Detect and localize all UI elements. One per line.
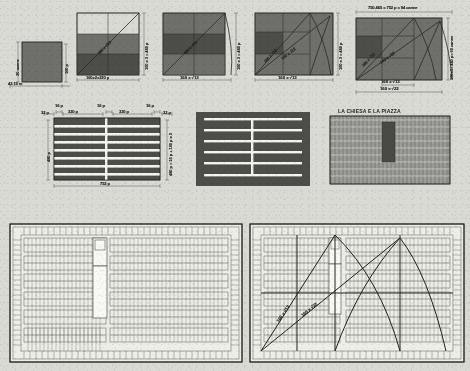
- fig1-right-label: 160 p: [65, 64, 69, 74]
- figure-block-subdivision-plain: [196, 112, 310, 186]
- fig6-right-stack-label: 480 p = 16 p + 160 p x 3: [169, 133, 173, 176]
- figure-final-rectangle: 750.465 = 752 p = 94 canne 160 x √13 160…: [352, 6, 464, 98]
- scanned-diagram-page: 20 canne 160 p 42.19 m 160x2=320 p 160 x…: [0, 0, 470, 371]
- figure-arc-rotation-root22: 160 x √13 160 x 3 = 480 p 160 x √13 160 …: [252, 10, 344, 94]
- fig2-right-label: 160 x 3 = 480 p: [145, 43, 149, 70]
- figure-double-square-diagonal: 160x2=320 p 160 x 3 = 480 p 160 x √13: [74, 10, 154, 94]
- fig4-right-label: 160 x 3 = 480 p: [339, 43, 343, 70]
- fig1-left-label: 20 canne: [16, 59, 20, 76]
- fig1-bottom-label: 42.19 m: [8, 82, 22, 86]
- fig6-top3-label: 16 p: [146, 104, 154, 108]
- figure-base-square-module: 20 canne 160 p 42.19 m: [8, 24, 72, 92]
- fig6-top4-label: 320 p: [68, 110, 78, 114]
- figure-city-plan-with-overlay: 160 x √13 160 x √22: [250, 224, 464, 362]
- figure-block-subdivision-dimensioned: 16 p 320 p 16 p 320 p 16 p 32 p 32 p 480…: [42, 104, 182, 190]
- figure-city-plan-full: [10, 224, 242, 362]
- fig5-bottom-inner-label: 160 x √13: [381, 80, 400, 84]
- fig6-top1-label: 16 p: [97, 104, 105, 108]
- fig4-bottom-label: 160 x √13: [278, 76, 297, 80]
- fig5-right-label: 160x3= 480 p= 60 canne: [450, 36, 454, 80]
- fig3-right-label: 160 x 3 = 480 p: [237, 43, 241, 70]
- fig6-top5-label: 16 p: [55, 104, 63, 108]
- fig6-top2-label: 320 p: [119, 110, 129, 114]
- fig6-right-corner-label: 32 p: [163, 111, 171, 115]
- figure-church-and-piazza-small: LA CHIESA E LA PIAZZA: [330, 108, 450, 192]
- fig6-left-vertical-label: 480 p: [47, 152, 51, 162]
- fig2-bottom-label: 160x2=320 p: [86, 76, 109, 80]
- fig5-bottom-outer-label: 160 x √22: [380, 87, 399, 91]
- fig8-title: LA CHIESA E LA PIAZZA: [338, 108, 401, 114]
- fig6-bottom-label: 752 p: [100, 182, 110, 186]
- fig6-left-corner-label: 32 p: [41, 111, 49, 115]
- fig5-top-label: 750.465 = 752 p = 94 canne: [368, 6, 418, 10]
- figure-arc-rotation-root13: 160 x √13 160 x 3 = 480 p 160 x √13: [160, 10, 246, 94]
- fig3-bottom-label: 160 x √13: [180, 76, 199, 80]
